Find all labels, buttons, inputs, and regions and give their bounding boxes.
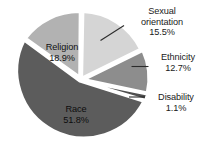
- slice-label-sexual-orientation-line1: Sexual: [126, 6, 198, 17]
- slice-value-disability: 1.1%: [146, 103, 206, 114]
- slice-value-ethnicity: 12.7%: [150, 63, 206, 74]
- slice-value-race: 51.8%: [46, 115, 106, 126]
- slice-label-race-line1: Race: [46, 104, 106, 115]
- slice-label-disability: Disability 1.1%: [146, 92, 206, 113]
- pie-chart-figure: Sexual orientation 15.5% Ethnicity 12.7%…: [0, 0, 209, 158]
- slice-label-race: Race 51.8%: [46, 104, 106, 125]
- slice-label-sexual-orientation-line2: orientation: [126, 17, 198, 28]
- slice-value-sexual-orientation: 15.5%: [126, 27, 198, 38]
- slice-label-sexual-orientation: Sexual orientation 15.5%: [126, 6, 198, 38]
- slice-label-ethnicity-line1: Ethnicity: [150, 52, 206, 63]
- slice-label-disability-line1: Disability: [146, 92, 206, 103]
- slice-label-religion-line1: Religion: [32, 42, 92, 53]
- slice-label-ethnicity: Ethnicity 12.7%: [150, 52, 206, 73]
- slice-label-religion: Religion 18.9%: [32, 42, 92, 63]
- slice-value-religion: 18.9%: [32, 53, 92, 64]
